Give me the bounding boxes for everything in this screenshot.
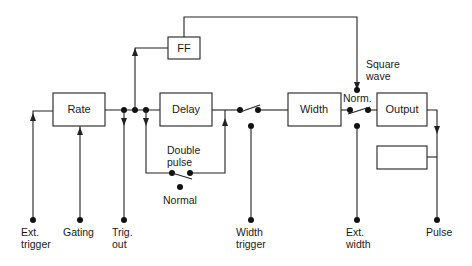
trig-out-label: Trig.	[112, 226, 133, 238]
arrow-down-icon	[143, 118, 149, 126]
ff-label: FF	[177, 42, 191, 54]
ext-width-terminal[interactable]	[354, 217, 360, 223]
switch-contact	[255, 107, 261, 113]
rate-block: Rate	[53, 93, 105, 126]
arrow-down-icon	[121, 118, 127, 126]
ext-width-contact[interactable]	[354, 123, 360, 129]
trig-out-terminal[interactable]	[121, 217, 127, 223]
pulse-label: Pulse	[426, 226, 452, 238]
double-pulse-label: pulse	[167, 156, 192, 168]
width-label: Width	[300, 103, 328, 115]
arrow-up-icon	[222, 118, 228, 126]
ext-trigger-line	[30, 111, 53, 223]
pulse-generator-block-diagram: Rate FF Delay	[0, 0, 472, 266]
norm-switch: Norm. Square wave	[343, 58, 400, 223]
width-trigger-label: trigger	[236, 238, 266, 250]
ext-trigger-terminal[interactable]	[30, 217, 36, 223]
switch-contact	[237, 107, 243, 113]
arrow-up-icon	[77, 127, 83, 135]
arrow-down-icon	[434, 126, 440, 134]
rate-label: Rate	[67, 103, 90, 115]
normal-contact[interactable]	[177, 184, 183, 190]
square-wave-label: Square	[366, 58, 400, 70]
output-label: Output	[385, 103, 418, 115]
gating-line	[77, 126, 83, 223]
arrow-up-icon	[30, 113, 36, 121]
gating-label: Gating	[63, 226, 94, 238]
output-block: Output	[377, 93, 440, 223]
trig-out-line	[121, 110, 127, 223]
arrow-up-icon	[132, 48, 138, 56]
trig-out-label: out	[112, 238, 127, 250]
ext-width-label: width	[345, 238, 371, 250]
width-trigger-switch	[237, 105, 261, 223]
delay-block: Delay	[160, 93, 212, 126]
normal-label: Normal	[163, 194, 197, 206]
ext-trigger-label: Ext.	[21, 226, 39, 238]
double-pulse-label: Double	[167, 144, 200, 156]
ext-trigger-label: trigger	[21, 238, 51, 250]
delay-label: Delay	[172, 103, 201, 115]
norm-label: Norm.	[343, 92, 372, 104]
terminal-labels: Ext. trigger Gating Trig. out Width trig…	[21, 226, 452, 250]
pulse-terminal[interactable]	[434, 217, 440, 223]
ext-width-label: Ext.	[346, 226, 364, 238]
width-trigger-contact[interactable]	[248, 123, 254, 129]
switch-contact	[187, 170, 193, 176]
gating-terminal[interactable]	[77, 217, 83, 223]
width-trigger-label: Width	[236, 226, 263, 238]
unlabeled-block	[377, 146, 427, 169]
square-wave-label: wave	[365, 70, 391, 82]
switch-contact	[347, 107, 353, 113]
width-block: Width	[288, 93, 341, 126]
width-trigger-terminal[interactable]	[248, 217, 254, 223]
